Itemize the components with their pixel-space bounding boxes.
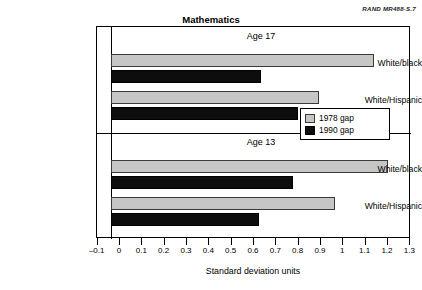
- category-label-age17-white-hispanic: White/Hispanic: [330, 95, 422, 105]
- legend-label-1978: 1978 gap: [319, 113, 354, 123]
- legend-label-1990: 1990 gap: [319, 125, 354, 135]
- category-label-age13-white-black: White/black: [330, 164, 422, 174]
- bar-age17-white-hispanic-1978: [111, 91, 319, 104]
- panel-label-age-17: Age 17: [111, 31, 411, 41]
- x-tick: [164, 238, 165, 245]
- legend-swatch-1990-icon: [305, 126, 315, 135]
- x-tick-label: –0.1: [89, 246, 105, 255]
- panel-age-13: Age 13: [111, 133, 411, 239]
- x-tick: [275, 238, 276, 245]
- legend-item-1978: 1978 gap: [305, 112, 385, 124]
- x-tick-label: 0.6: [247, 246, 258, 255]
- bar-age13-white-hispanic-1990: [111, 213, 259, 226]
- bar-age13-white-black-1990: [111, 176, 293, 189]
- x-tick: [298, 238, 299, 245]
- x-tick: [253, 238, 254, 245]
- x-tick: [365, 238, 366, 245]
- x-tick: [208, 238, 209, 245]
- x-tick: [387, 238, 388, 245]
- legend-swatch-1978-icon: [305, 114, 315, 123]
- bar-age17-white-black-1990: [111, 70, 261, 83]
- x-tick-label: 0.5: [225, 246, 236, 255]
- x-tick-label: 0.4: [203, 246, 214, 255]
- x-tick-label: 0.2: [158, 246, 169, 255]
- legend: 1978 gap 1990 gap: [300, 108, 390, 140]
- x-tick: [342, 238, 343, 245]
- x-tick-label: 1.2: [381, 246, 392, 255]
- bar-age13-white-hispanic-1978: [111, 197, 335, 210]
- x-tick-label: 0.8: [292, 246, 303, 255]
- x-tick: [231, 238, 232, 245]
- bar-age17-white-hispanic-1990: [111, 107, 298, 120]
- x-tick: [409, 238, 410, 245]
- x-tick-label: 0.3: [180, 246, 191, 255]
- x-tick-label: 1: [340, 246, 344, 255]
- x-tick-label: 1.3: [404, 246, 415, 255]
- x-tick-label: 0.9: [314, 246, 325, 255]
- x-tick-label: 0: [117, 246, 121, 255]
- x-tick: [186, 238, 187, 245]
- x-tick-label: 1.1: [359, 246, 370, 255]
- category-label-age13-white-hispanic: White/Hispanic: [330, 201, 422, 211]
- x-tick-label: 0.7: [270, 246, 281, 255]
- x-tick: [320, 238, 321, 245]
- x-tick: [97, 238, 98, 245]
- rand-source-credit: RAND MR488-S.7: [362, 5, 416, 12]
- x-tick-label: 0.1: [136, 246, 147, 255]
- chart-title: Mathematics: [0, 14, 422, 25]
- x-tick: [141, 238, 142, 245]
- category-label-age17-white-black: White/black: [330, 58, 422, 68]
- legend-item-1990: 1990 gap: [305, 124, 385, 136]
- x-tick: [119, 238, 120, 245]
- x-axis-ticks: [96, 238, 410, 246]
- x-axis-title: Standard deviation units: [96, 266, 410, 276]
